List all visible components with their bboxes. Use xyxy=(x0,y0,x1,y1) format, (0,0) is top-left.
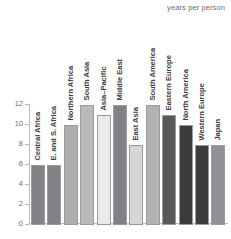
bar-group[interactable]: South Asia xyxy=(80,105,94,225)
plot-area: Central AfricaE. and S. AfricaNorthern A… xyxy=(30,103,228,225)
bar[interactable] xyxy=(64,125,78,225)
unit-note: years per person xyxy=(167,3,225,12)
bar-category-label: North America xyxy=(181,70,189,121)
y-axis-tick-label: 4 xyxy=(8,180,23,188)
bar-category-label: Asia–Pacific xyxy=(99,67,107,111)
bar-group[interactable]: Japan xyxy=(211,105,225,225)
bar[interactable] xyxy=(31,165,45,225)
bar-category-label: E. and S. Africa xyxy=(50,106,58,161)
bar-category-label: South Asia xyxy=(83,62,91,101)
bar-category-label: South America xyxy=(148,48,156,101)
bar-category-label: Central Africa xyxy=(34,112,42,161)
y-axis-tick-label: 10 xyxy=(8,120,23,128)
y-axis-tick-label: 2 xyxy=(8,200,23,208)
bar-group[interactable]: Central Africa xyxy=(31,105,45,225)
bar-group[interactable]: Western Europe xyxy=(195,105,209,225)
bar[interactable] xyxy=(195,145,209,225)
bar[interactable] xyxy=(113,105,127,225)
bar-category-label: Japan xyxy=(214,119,222,141)
bar-group[interactable]: E. and S. Africa xyxy=(47,105,61,225)
bar[interactable] xyxy=(80,105,94,225)
bar-group[interactable]: East Asia xyxy=(129,105,143,225)
bar-chart: years per person 024681012 Central Afric… xyxy=(0,0,231,239)
bar[interactable] xyxy=(162,115,176,225)
bar-group[interactable]: North America xyxy=(179,105,193,225)
bar-group[interactable]: Asia–Pacific xyxy=(97,105,111,225)
bar-group[interactable]: Middle East xyxy=(113,105,127,225)
bar-group[interactable]: Eastern Europe xyxy=(162,105,176,225)
bar[interactable] xyxy=(146,105,160,225)
bar[interactable] xyxy=(179,125,193,225)
bar-category-label: East Asia xyxy=(132,108,140,141)
y-axis-tick-label: 8 xyxy=(8,140,23,148)
y-axis-tick-label: 6 xyxy=(8,160,23,168)
y-axis-tick-label: 12 xyxy=(8,100,23,108)
bar[interactable] xyxy=(97,115,111,225)
bar-group[interactable]: Northern Africa xyxy=(64,105,78,225)
bar-category-label: Western Europe xyxy=(198,84,206,141)
bar[interactable] xyxy=(211,145,225,225)
bar[interactable] xyxy=(129,145,143,225)
bar[interactable] xyxy=(47,165,61,225)
bar-group[interactable]: South America xyxy=(146,105,160,225)
bar-category-label: Middle East xyxy=(116,59,124,101)
bar-category-label: Northern Africa xyxy=(66,66,74,121)
bar-category-label: Eastern Europe xyxy=(165,56,173,111)
y-axis-tick-label: 0 xyxy=(8,220,23,228)
